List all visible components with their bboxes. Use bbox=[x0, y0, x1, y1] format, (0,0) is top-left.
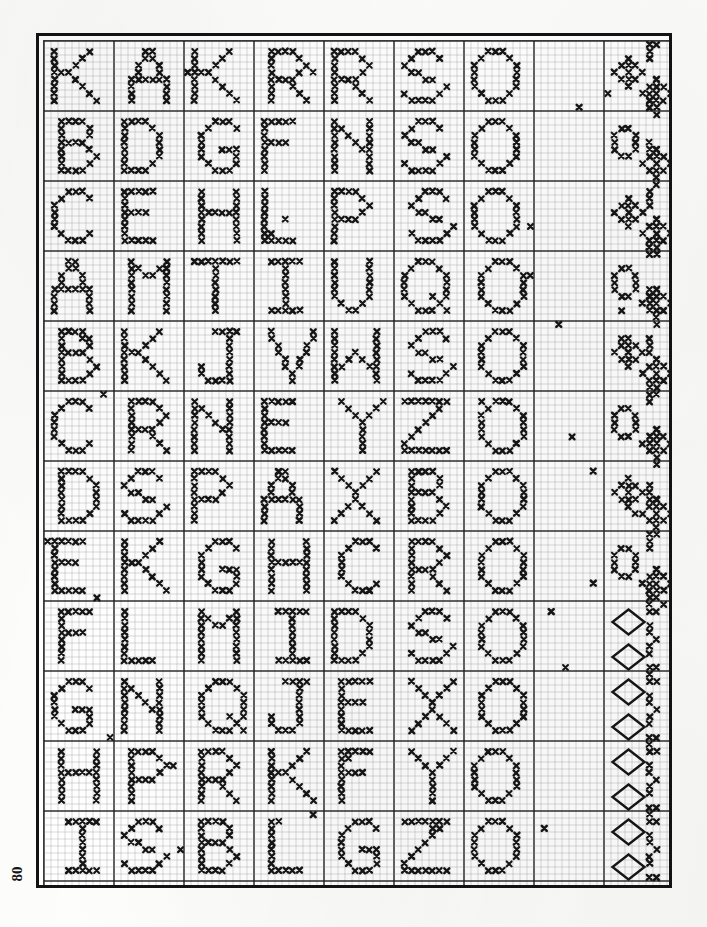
page-number: 80 bbox=[0, 861, 34, 887]
chart-grid-area bbox=[43, 40, 671, 887]
stitch-symbols-layer bbox=[44, 41, 671, 887]
scanned-page: 80 bbox=[0, 0, 707, 927]
chart-outer-border bbox=[36, 33, 672, 888]
